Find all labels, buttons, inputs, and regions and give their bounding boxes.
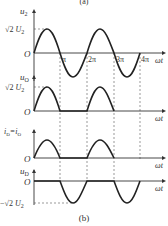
svg-text:√2 U2: √2 U2 (5, 83, 24, 93)
svg-text:ωt: ωt (155, 114, 164, 123)
svg-text:uO: uO (20, 72, 30, 83)
svg-text:ωt: ωt (155, 56, 164, 65)
svg-text:uD: uD (20, 166, 30, 177)
svg-text:O: O (24, 154, 31, 164)
panel-u2: u2 √2 U2 O π 2π 3π 4π ωt (5, 6, 166, 81)
svg-text:3π: 3π (116, 55, 124, 64)
svg-text:4π: 4π (141, 55, 149, 64)
svg-text:ωt: ωt (155, 161, 164, 170)
rectifier-waveform-diagram: (a) u2 √2 U2 O π 2π 3π 4π ωt uO √2 U2 O … (0, 0, 168, 226)
svg-text:2π: 2π (88, 55, 96, 64)
svg-text:√2 U2: √2 U2 (5, 25, 24, 35)
top-caption: (a) (80, 0, 89, 6)
svg-text:O: O (24, 177, 31, 187)
origin-label: O (24, 49, 31, 59)
panel-uO: uO √2 U2 O ωt (5, 72, 166, 123)
svg-text:iD=iO: iD=iO (4, 127, 21, 137)
period-guide-lines (60, 53, 140, 181)
svg-text:O: O (24, 107, 31, 117)
svg-text:u2: u2 (20, 6, 28, 17)
svg-text:−√2 U2: −√2 U2 (0, 199, 24, 209)
svg-text:ωt: ωt (155, 184, 164, 193)
panel-uD: uD O −√2 U2 ωt (0, 166, 166, 209)
svg-text:π: π (62, 55, 66, 64)
panel-iD: iD=iO O ωt (4, 127, 166, 170)
bottom-caption: (b) (79, 213, 90, 223)
